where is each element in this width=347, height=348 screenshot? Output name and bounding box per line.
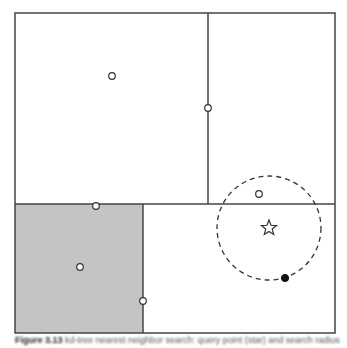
data-point	[77, 264, 84, 271]
data-point	[205, 105, 212, 112]
query-star-icon	[261, 220, 276, 234]
caption-label: Figure 3.13	[15, 335, 63, 345]
data-point	[109, 73, 116, 80]
caption-text: kd-tree nearest neighbor search: query p…	[65, 335, 340, 345]
data-point	[256, 191, 263, 198]
data-point	[140, 298, 147, 305]
figure-caption: Figure 3.13 kd-tree nearest neighbor sea…	[15, 334, 345, 348]
nearest-point	[281, 274, 288, 281]
data-point	[93, 203, 100, 210]
nearest-neighbor-point	[281, 274, 288, 281]
